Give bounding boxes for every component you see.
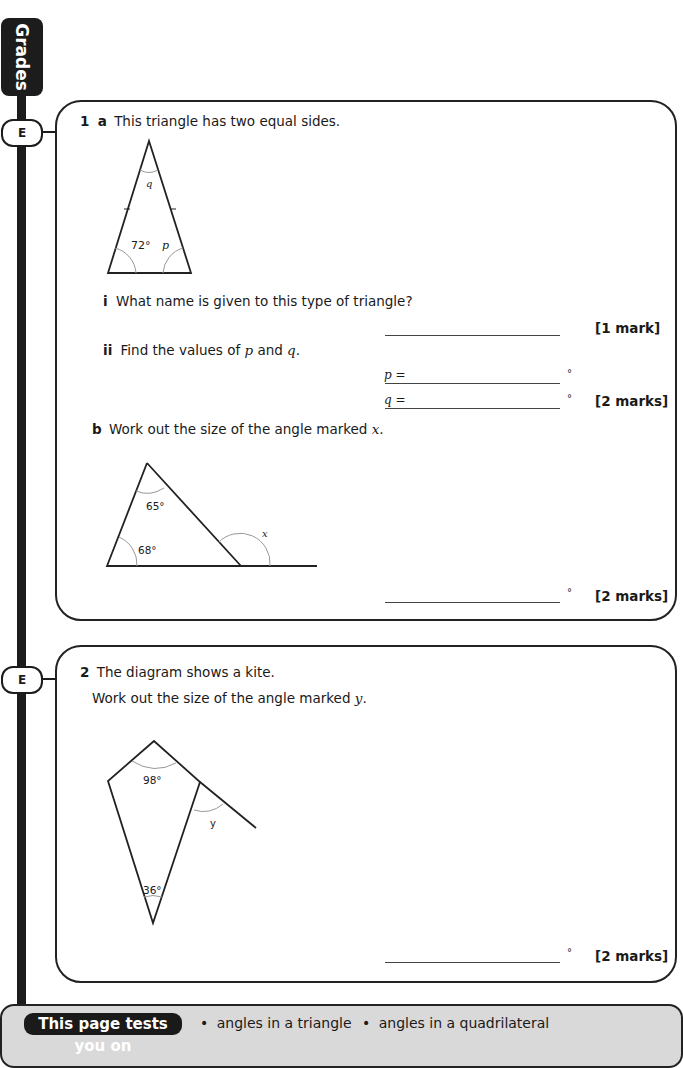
q1a-ii: ii Find the values of p and q. xyxy=(103,342,300,358)
grade-badge-q1: E xyxy=(1,119,43,147)
q1a-i-label: i xyxy=(103,293,108,309)
q1a-heading: 1 a This triangle has two equal sides. xyxy=(80,113,340,129)
q2-instruction: Work out the size of the angle marked y. xyxy=(92,690,367,706)
angle-label-72: 72° xyxy=(131,239,151,252)
q1a-i-text: What name is given to this type of trian… xyxy=(116,293,413,309)
angle-label-q: q xyxy=(146,178,152,189)
var-p: p xyxy=(244,342,253,358)
angle-label-36: 36° xyxy=(143,884,162,896)
var-q: q xyxy=(287,342,296,358)
q1b-degree-unit: ° xyxy=(567,587,572,598)
q1a-ii-period: . xyxy=(296,342,300,358)
q1a-i-marks: [1 mark] xyxy=(595,320,660,336)
q1a-label: a xyxy=(98,113,107,129)
q1b-label: b xyxy=(92,421,102,437)
angle-label-68: 68° xyxy=(138,544,157,556)
p-answer-prefix: p = xyxy=(384,368,406,382)
grades-bar xyxy=(17,94,26,1006)
q1-number: 1 xyxy=(80,113,89,129)
q1b-answer-line[interactable] xyxy=(385,602,560,603)
q1a-ii-and: and xyxy=(253,342,287,358)
q2-answer-line[interactable] xyxy=(385,962,560,963)
q2-period: . xyxy=(362,690,366,706)
grade-connector-q2 xyxy=(42,678,56,680)
topic-angles-triangle: angles in a triangle xyxy=(217,1015,352,1031)
q-answer-line[interactable] xyxy=(385,408,560,409)
q2-number: 2 xyxy=(80,664,89,680)
angle-label-x: x xyxy=(262,528,268,539)
isosceles-triangle-diagram xyxy=(100,135,200,280)
q1a-ii-marks: [2 marks] xyxy=(595,393,668,409)
kite-diagram xyxy=(90,730,290,930)
topic-angles-quadrilateral: angles in a quadrilateral xyxy=(379,1015,550,1031)
q1a-i-answer-line[interactable] xyxy=(385,335,560,336)
q1b-heading: b Work out the size of the angle marked … xyxy=(92,421,384,437)
q2-marks: [2 marks] xyxy=(595,948,668,964)
q1b-period: . xyxy=(379,421,383,437)
angle-label-98: 98° xyxy=(143,774,162,786)
q1b-marks: [2 marks] xyxy=(595,588,668,604)
q2-heading: 2 The diagram shows a kite. xyxy=(80,664,275,680)
footer-topics: • angles in a triangle • angles in a qua… xyxy=(200,1015,549,1031)
grade-badge-q2: E xyxy=(1,666,43,694)
q-degree-unit: ° xyxy=(567,393,572,404)
bullet: • xyxy=(200,1015,208,1031)
q-answer-prefix: q = xyxy=(384,393,406,407)
bullet: • xyxy=(362,1015,370,1031)
q1a-text: This triangle has two equal sides. xyxy=(114,113,340,129)
q2-degree-unit: ° xyxy=(567,947,572,958)
grades-tab: Grades xyxy=(1,18,43,96)
q1b-text: Work out the size of the angle marked xyxy=(109,421,372,437)
q1a-i: i What name is given to this type of tri… xyxy=(103,293,413,309)
footer-pill: This page tests you on xyxy=(24,1013,182,1035)
grade-connector-q1 xyxy=(42,131,56,133)
p-degree-unit: ° xyxy=(567,368,572,379)
angle-label-p: p xyxy=(162,239,169,252)
grades-title: Grades xyxy=(12,23,32,91)
q1a-ii-label: ii xyxy=(103,342,112,358)
q1a-ii-text: Find the values of xyxy=(121,342,245,358)
q2-text: The diagram shows a kite. xyxy=(97,664,275,680)
angle-label-65: 65° xyxy=(146,500,165,512)
angle-label-y: y xyxy=(210,818,216,829)
q2-instruction-text: Work out the size of the angle marked xyxy=(92,690,355,706)
p-answer-line[interactable] xyxy=(385,383,560,384)
triangle-exterior-angle-diagram xyxy=(100,455,325,575)
